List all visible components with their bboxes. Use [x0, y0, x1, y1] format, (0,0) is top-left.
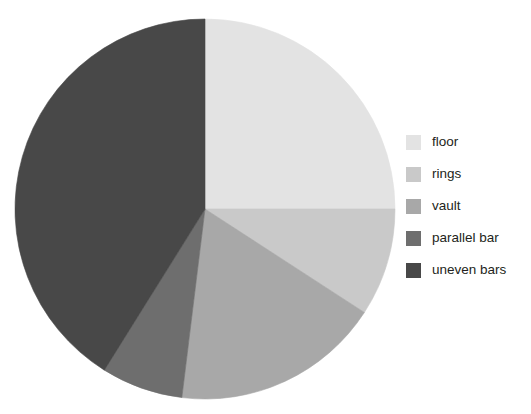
- legend-item-parallel-bar[interactable]: parallel bar: [406, 222, 531, 254]
- pie-slice-floor[interactable]: [205, 19, 395, 209]
- legend-label: rings: [432, 167, 461, 181]
- legend-label: uneven bars: [432, 263, 506, 277]
- legend-swatch-icon: [406, 263, 421, 278]
- legend-swatch-icon: [406, 199, 421, 214]
- legend-label: parallel bar: [432, 231, 499, 245]
- pie-chart-svg: [0, 0, 410, 414]
- legend-label: vault: [432, 199, 461, 213]
- pie-chart-figure: floor rings vault parallel bar uneven ba…: [0, 0, 531, 414]
- legend-swatch-icon: [406, 167, 421, 182]
- chart-legend: floor rings vault parallel bar uneven ba…: [406, 126, 531, 286]
- legend-label: floor: [432, 135, 458, 149]
- pie-plot-area: [0, 0, 410, 414]
- legend-item-floor[interactable]: floor: [406, 126, 531, 158]
- pie-slice-group: [15, 19, 395, 399]
- legend-swatch-icon: [406, 135, 421, 150]
- legend-swatch-icon: [406, 231, 421, 246]
- legend-item-rings[interactable]: rings: [406, 158, 531, 190]
- legend-item-vault[interactable]: vault: [406, 190, 531, 222]
- legend-item-uneven-bars[interactable]: uneven bars: [406, 254, 531, 286]
